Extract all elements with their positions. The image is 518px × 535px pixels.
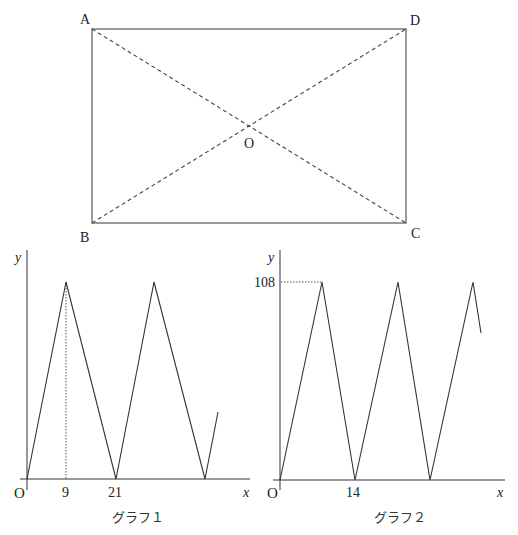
graph1-origin-label: O — [14, 485, 25, 501]
vertex-b-label: B — [80, 230, 89, 245]
figure-canvas: A D B C O y x O 9 21 グラフ１ y x O 14 108 グ… — [0, 0, 518, 535]
graph2-x-label: x — [496, 485, 504, 500]
vertex-a-label: A — [80, 12, 91, 27]
graph2-line — [280, 282, 481, 480]
graph1-tick-9: 9 — [62, 485, 69, 500]
graph2-origin-label: O — [267, 485, 278, 501]
graph-1: y x O 9 21 グラフ１ — [13, 250, 250, 525]
graph1-x-label: x — [242, 485, 250, 500]
graph1-line — [27, 282, 218, 479]
graph1-tick-21: 21 — [108, 485, 122, 500]
graph2-caption: グラフ２ — [374, 510, 426, 525]
rectangle-abcd: A D B C O — [80, 12, 420, 245]
graph-2: y x O 14 108 グラフ２ — [254, 250, 505, 525]
graph1-caption: グラフ１ — [112, 510, 164, 525]
center-o-label: O — [244, 136, 254, 151]
graph2-y-label: y — [266, 250, 275, 265]
vertex-c-label: C — [411, 226, 420, 241]
vertex-d-label: D — [410, 13, 420, 28]
graph2-tick-108: 108 — [254, 275, 275, 290]
graph2-tick-14: 14 — [346, 485, 360, 500]
graph1-y-label: y — [13, 250, 22, 265]
